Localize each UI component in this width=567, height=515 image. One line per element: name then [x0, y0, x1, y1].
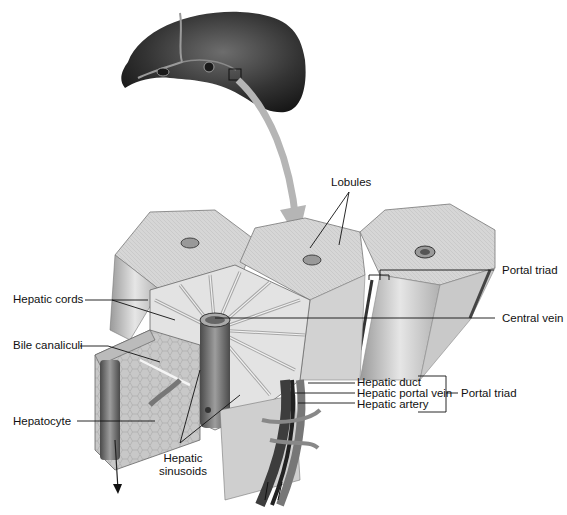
liver-lobule-illustration [0, 0, 567, 515]
label-bile-canaliculi: Bile canaliculi [13, 339, 83, 352]
liver-organ [121, 12, 305, 112]
label-hepatic-cords: Hepatic cords [13, 293, 83, 306]
label-hepatocyte: Hepatocyte [13, 415, 71, 428]
label-portal-triad-group: Portal triad [461, 387, 517, 400]
lobule-right [360, 204, 495, 380]
label-central-vein: Central vein [502, 312, 563, 325]
label-hepatic-sinusoids-line1: Hepatic [158, 452, 208, 465]
label-hepatic-artery: Hepatic artery [357, 398, 429, 411]
label-hepatic-sinusoids-line2: sinusoids [158, 465, 208, 478]
label-portal-triad-top: Portal triad [502, 264, 558, 277]
label-hepatic-sinusoids: Hepatic sinusoids [158, 452, 208, 478]
label-lobules: Lobules [331, 176, 371, 189]
